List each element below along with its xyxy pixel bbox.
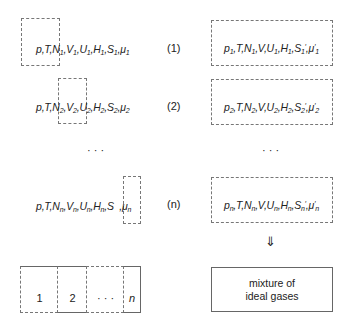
mixture-box: mixture of ideal gases xyxy=(211,267,333,312)
row2-left-state: p,T,N2,V2,U2,H2,S2,μ2 xyxy=(36,101,130,114)
mixture-line2: ideal gases xyxy=(245,290,298,303)
sym: V xyxy=(66,101,73,113)
left-ellipsis: · · · xyxy=(87,144,104,156)
sym: S xyxy=(107,43,114,55)
sym: U xyxy=(79,200,86,212)
sym: H xyxy=(93,43,100,55)
row1-left-state: p,T,N1,V1,U1,H1,S1,μ1 xyxy=(36,43,130,56)
sym: U xyxy=(79,101,86,113)
rown-right-state: pn,T,Nn,V,Un,Hn,Sn′,μ′n xyxy=(224,199,319,212)
sym: H xyxy=(280,42,287,54)
row1-right-state: p1,T,N1,V,U1,H1,S1′,μ′1 xyxy=(224,42,319,55)
sym: 2 xyxy=(126,107,130,114)
sym: U xyxy=(267,101,274,113)
rown-label: (n) xyxy=(167,198,180,210)
partition-cell-ellipsis: · · · xyxy=(86,266,124,313)
cell-label: n xyxy=(129,292,135,304)
sym: 2 xyxy=(315,107,319,114)
sym: U xyxy=(79,43,86,55)
sym: n xyxy=(315,205,319,212)
sym: U xyxy=(267,199,274,211)
sym: 1 xyxy=(315,48,319,55)
sym: H xyxy=(280,199,287,211)
sym: H xyxy=(93,200,100,212)
cell-label: 2 xyxy=(69,292,75,304)
sym: S xyxy=(107,101,114,113)
sym: V xyxy=(66,200,73,212)
sym: S xyxy=(294,199,301,211)
row2-right-state: p2,T,N2,V,U2,H2,S2′,μ′2 xyxy=(224,101,319,114)
rown-left-state: p,T,Nn,Vn,Un,Hn,S ,μn xyxy=(36,200,131,213)
row2-label: (2) xyxy=(167,100,180,112)
sym: S xyxy=(294,42,301,54)
right-ellipsis: · · · xyxy=(262,144,279,156)
sym: N xyxy=(52,43,59,55)
subsystem-1-boundary xyxy=(21,18,60,66)
cell-label: · · · xyxy=(97,292,114,304)
sym: U xyxy=(267,42,274,54)
sym: H xyxy=(93,101,100,113)
partition-cell-1: 1 xyxy=(20,266,58,313)
sym: S xyxy=(107,200,114,212)
sym: N xyxy=(52,101,59,113)
sym: n xyxy=(128,206,132,213)
cell-label: 1 xyxy=(36,292,42,304)
down-double-arrow-icon: ⇓ xyxy=(265,234,276,249)
row1-label: (1) xyxy=(167,42,180,54)
partition-cell-n: n xyxy=(123,266,141,313)
sym: H xyxy=(280,101,287,113)
mixture-line1: mixture of xyxy=(249,277,295,290)
sym: N xyxy=(52,200,59,212)
partitioned-container: 1 2 · · · n xyxy=(20,266,141,313)
partition-cell-2: 2 xyxy=(57,266,87,313)
sym: V xyxy=(66,43,73,55)
sym: S xyxy=(294,101,301,113)
sym: 1 xyxy=(126,49,130,56)
